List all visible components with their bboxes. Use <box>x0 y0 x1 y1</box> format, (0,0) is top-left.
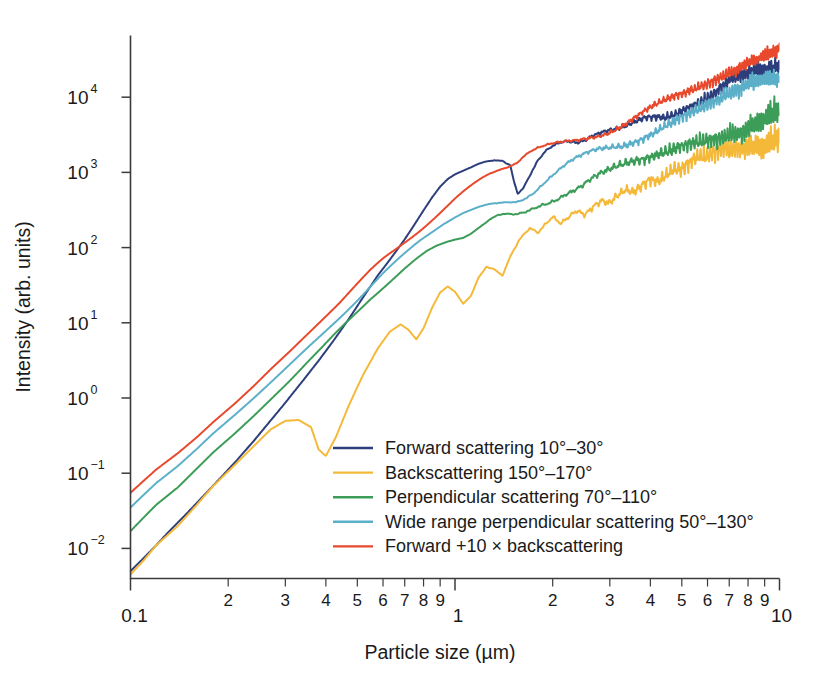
svg-text:10: 10 <box>67 538 88 559</box>
x-tick-label-minor: 2 <box>223 591 232 610</box>
x-axis-title: Particle size (µm) <box>364 641 515 663</box>
legend-group: Forward scattering 10°–30°Backscattering… <box>333 438 754 556</box>
svg-text:4: 4 <box>91 82 98 96</box>
x-tick-label-minor: 6 <box>378 591 387 610</box>
y-tick-label: 101 <box>67 308 97 334</box>
x-tick-label-minor: 9 <box>435 591 444 610</box>
y-tick-label: 10−1 <box>67 458 104 484</box>
y-tick-label: 102 <box>67 233 97 259</box>
scattering-intensity-chart: 0.11102345678923456789 10−210−1100101102… <box>0 0 823 681</box>
x-tick-label-minor: 4 <box>646 591 655 610</box>
svg-text:0: 0 <box>91 383 98 397</box>
x-tick-label-minor: 3 <box>605 591 614 610</box>
chart-canvas: 0.11102345678923456789 10−210−1100101102… <box>0 0 823 681</box>
x-tick-label-major: 1 <box>453 605 464 626</box>
x-tick-label-minor: 7 <box>400 591 409 610</box>
svg-text:−2: −2 <box>91 533 105 547</box>
x-tick-label-minor: 8 <box>419 591 428 610</box>
y-tick-label: 103 <box>67 157 97 183</box>
x-tick-label-minor: 8 <box>743 591 752 610</box>
svg-text:1: 1 <box>91 308 98 322</box>
y-tick-label: 10−2 <box>67 533 104 559</box>
x-tick-label-minor: 9 <box>760 591 769 610</box>
legend-label-1: Forward scattering 10°–30° <box>385 438 604 458</box>
svg-text:2: 2 <box>91 233 98 247</box>
x-tick-label-minor: 3 <box>281 591 290 610</box>
svg-text:10: 10 <box>67 388 88 409</box>
x-tick-group: 0.11102345678923456789 <box>121 579 792 626</box>
svg-text:10: 10 <box>67 238 88 259</box>
y-tick-group: 10−210−1100101102103104 <box>67 82 130 559</box>
x-tick-label-minor: 5 <box>677 591 686 610</box>
legend-label-5: Forward +10 × backscattering <box>385 536 623 556</box>
legend-label-4: Wide range perpendicular scattering 50°–… <box>385 512 754 532</box>
legend-label-3: Perpendicular scattering 70°–110° <box>385 487 657 507</box>
x-tick-label-minor: 4 <box>321 591 330 610</box>
y-axis-title: Intensity (arb. units) <box>12 221 34 392</box>
x-tick-label-minor: 2 <box>548 591 557 610</box>
x-tick-label-minor: 7 <box>724 591 733 610</box>
y-tick-label: 100 <box>67 383 97 409</box>
x-tick-label-minor: 6 <box>703 591 712 610</box>
x-tick-label-minor: 5 <box>353 591 362 610</box>
svg-text:10: 10 <box>67 313 88 334</box>
y-tick-label: 104 <box>67 82 97 108</box>
svg-text:−1: −1 <box>91 458 105 472</box>
svg-text:3: 3 <box>91 157 98 171</box>
x-tick-label-major: 10 <box>771 605 792 626</box>
x-tick-label-major: 0.1 <box>121 605 147 626</box>
svg-text:10: 10 <box>67 162 88 183</box>
svg-text:10: 10 <box>67 463 88 484</box>
svg-text:10: 10 <box>67 87 88 108</box>
legend-label-2: Backscattering 150°–170° <box>385 463 593 483</box>
